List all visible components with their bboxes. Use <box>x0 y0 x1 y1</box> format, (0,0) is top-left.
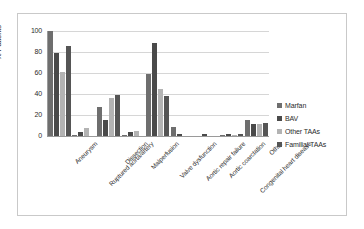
legend-item-label: BAV <box>285 115 298 122</box>
bar <box>109 98 114 136</box>
legend-item[interactable]: BAV <box>277 113 349 124</box>
legend-item-label: Marfan <box>285 102 306 109</box>
bar <box>84 128 89 136</box>
bar-group <box>47 31 72 136</box>
chart-legend: MarfanBAVOther TAAsFamilial TAAs <box>277 100 349 152</box>
plot-area <box>47 31 269 136</box>
bar <box>54 53 59 136</box>
legend-item[interactable]: Marfan <box>277 100 349 111</box>
legend-swatch-icon <box>277 116 282 121</box>
bar <box>115 95 120 136</box>
bar <box>158 89 163 136</box>
bar-group <box>96 31 121 136</box>
bar <box>245 120 250 136</box>
bar <box>103 120 108 136</box>
bar-group <box>244 31 269 136</box>
bar-group <box>220 31 245 136</box>
legend-swatch-icon <box>277 142 282 147</box>
bar-group <box>195 31 220 136</box>
bar <box>251 124 256 136</box>
bar-group <box>170 31 195 136</box>
legend-item[interactable]: Other TAAs <box>277 126 349 137</box>
bar <box>152 43 157 136</box>
bar-group <box>146 31 171 136</box>
legend-item[interactable]: Familial TAAs <box>277 139 349 150</box>
x-axis-line <box>47 136 269 137</box>
y-axis-title: % Patients <box>0 25 3 60</box>
bar <box>263 123 268 136</box>
legend-swatch-icon <box>277 129 282 134</box>
bar <box>146 74 151 136</box>
bar <box>171 127 176 136</box>
legend-item-label: Other TAAs <box>285 128 320 135</box>
bar <box>48 31 53 136</box>
legend-swatch-icon <box>277 103 282 108</box>
bar <box>60 72 65 136</box>
bar-group <box>72 31 97 136</box>
legend-item-label: Familial TAAs <box>285 141 326 148</box>
bar <box>66 46 71 136</box>
chart-figure: 100806040200 % Patients AneurysmRuptured… <box>0 0 364 229</box>
bar <box>97 107 102 136</box>
y-axis-line <box>47 31 48 137</box>
bar <box>164 96 169 136</box>
bar-group <box>121 31 146 136</box>
bar <box>257 124 262 136</box>
